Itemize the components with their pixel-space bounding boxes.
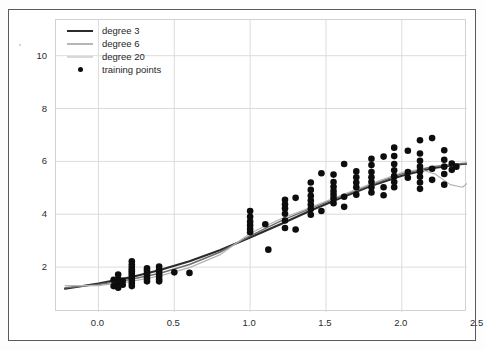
legend-item: degree 20 — [66, 50, 194, 63]
x-tick-label: 2.0 — [394, 317, 407, 328]
line-sample-icon — [67, 43, 93, 44]
line-sample-icon — [67, 30, 93, 32]
legend-item: training points — [66, 63, 194, 76]
y-tick-label: 2 — [29, 261, 47, 272]
y-tick-label: 6 — [29, 155, 47, 166]
x-tick-label: 0.5 — [167, 317, 180, 328]
x-tick-label: 1.0 — [243, 317, 256, 328]
x-tick-label: 2.5 — [470, 317, 483, 328]
y-tick-label: 8 — [29, 102, 47, 113]
legend-point-marker-icon — [66, 63, 94, 76]
image-artifact-dot — [19, 44, 21, 46]
legend-item-label: training points — [94, 64, 161, 75]
legend-line-marker-icon — [66, 50, 94, 63]
figure-canvas: 0.00.51.01.52.02.5 246810 degree 3degree… — [0, 0, 484, 350]
legend-line-marker-icon — [66, 24, 94, 37]
legend-item-label: degree 6 — [94, 38, 140, 49]
y-tick-label: 4 — [29, 208, 47, 219]
line-sample-icon — [67, 56, 93, 57]
legend-line-marker-icon — [66, 37, 94, 50]
y-tick-label: 10 — [29, 49, 47, 60]
scatter-dot-icon — [78, 67, 83, 72]
legend-item-label: degree 3 — [94, 25, 140, 36]
legend-item: degree 6 — [66, 37, 194, 50]
chart-legend: degree 3degree 6degree 20training points — [66, 24, 194, 76]
legend-item: degree 3 — [66, 24, 194, 37]
legend-item-label: degree 20 — [94, 51, 145, 62]
x-tick-label: 0.0 — [91, 317, 104, 328]
x-tick-label: 1.5 — [318, 317, 331, 328]
